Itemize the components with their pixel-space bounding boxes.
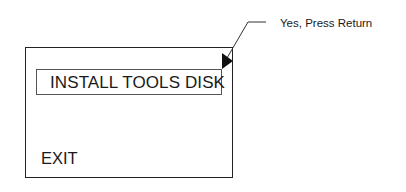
leader-line [227,22,266,58]
arrow-right-icon [222,53,233,69]
callout-leader [0,0,406,192]
